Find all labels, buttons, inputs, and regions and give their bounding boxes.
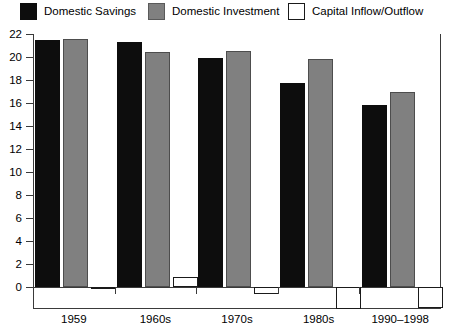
bar-group (359, 34, 441, 309)
white-swatch-icon (288, 3, 305, 20)
bar-domestic-investment (390, 92, 415, 288)
bar-group (115, 34, 197, 309)
x-axis-tick-mark (115, 287, 116, 294)
x-axis-tick-label: 1959 (33, 313, 115, 325)
chart-figure: Domestic Savings Domestic Investment Cap… (0, 0, 466, 328)
bar-group (278, 34, 360, 309)
bar-capital-flow (254, 287, 279, 294)
legend-item-domestic-savings: Domestic Savings (20, 3, 136, 20)
bar-group (196, 34, 278, 309)
legend-label-domestic-investment: Domestic Investment (172, 3, 279, 20)
bar-domestic-investment (145, 52, 170, 287)
bar-domestic-investment (226, 51, 251, 287)
legend-item-domestic-investment: Domestic Investment (148, 3, 279, 20)
black-swatch-icon (20, 3, 37, 20)
x-axis-tick-label: 1980s (278, 313, 360, 325)
gray-swatch-icon (148, 3, 165, 20)
bar-capital-flow (418, 287, 443, 308)
x-axis-tick-mark (359, 287, 360, 294)
bar-group (33, 34, 115, 309)
legend-item-capital-flow: Capital Inflow/Outflow (288, 3, 423, 20)
bars-layer (0, 34, 466, 309)
bar-domestic-savings (35, 40, 60, 287)
bar-domestic-savings (117, 42, 142, 287)
bar-capital-flow (91, 287, 116, 289)
legend-label-domestic-savings: Domestic Savings (44, 3, 136, 20)
bar-domestic-savings (362, 105, 387, 287)
bar-domestic-investment (63, 39, 88, 287)
bar-capital-flow (336, 287, 361, 309)
x-axis-tick-label: 1960s (115, 313, 197, 325)
bar-domestic-savings (198, 58, 223, 287)
legend-label-capital-flow: Capital Inflow/Outflow (312, 3, 423, 20)
chart-legend: Domestic Savings Domestic Investment Cap… (0, 0, 466, 26)
bar-domestic-savings (280, 83, 305, 287)
x-axis-tick-label: 1990–1998 (359, 313, 441, 325)
x-axis-tick-mark (278, 287, 279, 294)
x-axis-tick-mark (196, 287, 197, 294)
bar-domestic-investment (308, 59, 333, 287)
bar-capital-flow (173, 277, 198, 287)
x-axis-tick-label: 1970s (196, 313, 278, 325)
